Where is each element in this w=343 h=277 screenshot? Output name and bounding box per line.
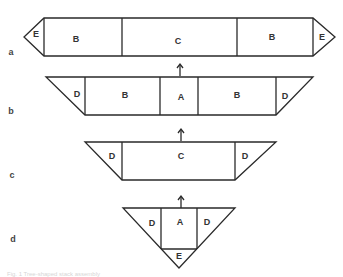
cell-d-d-left: D — [149, 218, 156, 228]
cell-d-d-right: D — [204, 217, 211, 227]
cell-c-c: C — [178, 151, 185, 161]
arrow-up-icon — [178, 196, 184, 208]
cell-b-a: A — [178, 92, 185, 102]
row-d: D A D E d — [10, 208, 235, 268]
row-label-b: b — [8, 106, 14, 116]
cell-c-d-left: D — [109, 151, 116, 161]
row-label-a: a — [8, 47, 14, 57]
stacked-shapes-diagram: E B C B E a D B A B D b D C D c — [0, 0, 343, 277]
row-b: D B A B D b — [8, 77, 313, 116]
cell-b-b-right: B — [234, 90, 241, 100]
row-c: D C D c — [9, 142, 276, 180]
cell-c-d-right: D — [242, 151, 249, 161]
row-label-d: d — [10, 234, 16, 244]
cell-a-e-left: E — [33, 29, 39, 39]
cell-d-e: E — [176, 251, 182, 261]
figure-caption: Fig. 1 Tree-shaped stack assembly — [7, 271, 100, 277]
cell-a-e-right: E — [319, 32, 325, 42]
cell-b-d-left: D — [74, 89, 81, 99]
cell-a-c: C — [175, 36, 182, 46]
arrow-up-icon — [178, 129, 184, 141]
cell-a-b-left: B — [73, 34, 80, 44]
cell-b-b-left: B — [122, 90, 129, 100]
cell-a-b-right: B — [269, 32, 276, 42]
arrow-up-icon — [177, 64, 183, 76]
cell-d-a: A — [177, 217, 184, 227]
row-label-c: c — [9, 170, 14, 180]
row-a: E B C B E a — [8, 18, 335, 57]
cell-b-d-right: D — [282, 91, 289, 101]
